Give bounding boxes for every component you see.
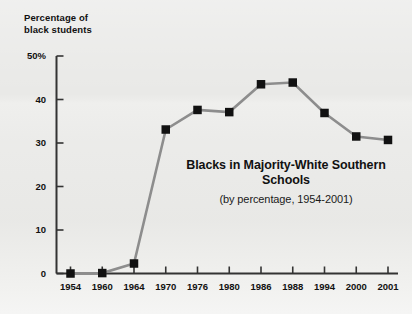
chart-subtitle: (by percentage, 1954-2001) xyxy=(178,193,394,205)
x-tick-label: 1954 xyxy=(54,281,88,292)
data-point-marker xyxy=(352,132,361,141)
line-chart: Percentage of black students 01020304050… xyxy=(0,0,412,314)
y-tick-label: 0 xyxy=(12,268,46,279)
x-tick-label: 1970 xyxy=(149,281,183,292)
x-tick-label: 2000 xyxy=(339,281,373,292)
y-tick-label: 20 xyxy=(12,181,46,192)
x-tick-label: 1960 xyxy=(85,281,119,292)
data-point-marker xyxy=(289,78,298,87)
data-point-marker xyxy=(130,259,139,268)
data-point-marker xyxy=(98,269,107,278)
data-point-marker xyxy=(162,125,171,134)
data-point-marker xyxy=(193,106,202,115)
data-point-marker xyxy=(320,109,329,118)
data-point-marker xyxy=(384,136,393,145)
x-tick-label: 1964 xyxy=(117,281,151,292)
y-tick-label: 30 xyxy=(12,137,46,148)
y-tick-label: 40 xyxy=(12,94,46,105)
chart-title: Blacks in Majority-White Southern School… xyxy=(178,158,394,188)
plot-area xyxy=(0,0,412,314)
x-tick-label: 1994 xyxy=(308,281,342,292)
x-tick-label: 1986 xyxy=(244,281,278,292)
y-axis-ticks xyxy=(57,56,64,274)
data-point-marker xyxy=(257,80,266,89)
data-point-marker xyxy=(225,108,234,117)
y-tick-label: 10 xyxy=(12,224,46,235)
x-tick-label: 1988 xyxy=(276,281,310,292)
x-tick-label: 1976 xyxy=(181,281,215,292)
y-tick-label: 50% xyxy=(12,50,46,61)
data-point-marker xyxy=(66,269,75,278)
x-tick-label: 2001 xyxy=(371,281,405,292)
x-tick-label: 1980 xyxy=(212,281,246,292)
